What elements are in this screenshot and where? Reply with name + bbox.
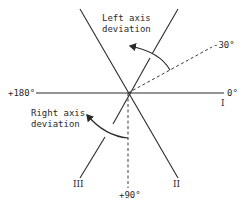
lead-III-axis-upper (152, 9, 178, 54)
label-lead-III: III (73, 179, 84, 189)
left-axis-deviation-label-1: Left axis (102, 13, 151, 23)
right-axis-deviation-label-1: Right axis (31, 108, 85, 118)
left-axis-deviation-label-2: deviation (102, 24, 151, 34)
right-axis-deviation-label-2: deviation (31, 119, 80, 129)
label-plus-180: +180° (8, 88, 35, 98)
right-axis-deviation-arrow (87, 115, 128, 138)
label-plus-90: +90° (119, 190, 141, 200)
axis-deviation-diagram: -30° 0° +180° +90° I II III Left axis de… (0, 0, 252, 208)
label-0: 0° (227, 88, 238, 98)
label-minus-30: -30° (213, 40, 235, 50)
label-lead-II: II (173, 179, 181, 189)
lead-III-axis-middle (113, 58, 150, 124)
label-lead-I: I (221, 98, 225, 108)
lead-III-axis-lower (80, 137, 105, 178)
